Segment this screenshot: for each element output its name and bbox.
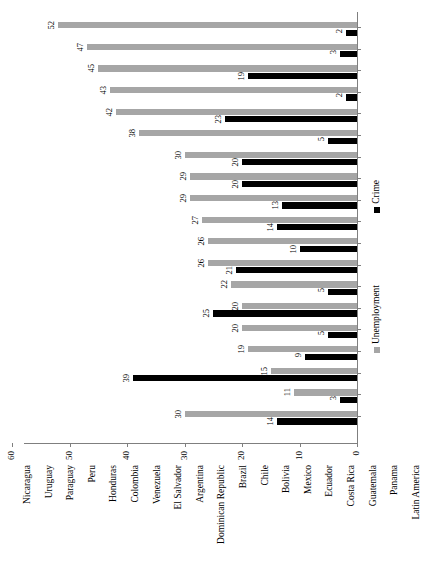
bar-value-label: 42 [105,108,114,117]
category-axis-tick [357,394,361,395]
bar-unemployment [185,411,358,417]
bar-crime [340,397,357,403]
category-axis-tick [357,265,361,266]
bar-value-label: 2 [335,93,344,97]
category-axis-tick [357,157,361,158]
category-label: Honduras [109,465,119,502]
value-axis-tick [357,443,358,447]
bar-value-label: 30 [174,151,183,160]
category-label: Costa Rica [347,465,357,506]
category-label: Venezuela [153,465,163,504]
value-axis-line [357,12,358,443]
bar-value-label: 10 [289,245,298,254]
category-label: Dominican Republic [217,465,227,544]
bar-unemployment [208,260,358,266]
category-axis-tick [357,351,361,352]
category-label: Chile [261,465,271,486]
bar-crime [340,51,357,57]
category-axis-tick [357,373,361,374]
legend-swatch-icon [374,207,380,213]
legend-label: Unemployment [372,285,382,344]
bar-unemployment [294,389,357,395]
category-axis-tick [357,221,361,222]
category-label: Colombia [131,465,141,502]
bar-value-label: 5 [317,288,326,292]
value-axis-tick [185,443,186,447]
category-label: Brazil [239,465,249,488]
bar-value-label: 30 [174,410,183,419]
category-label: El Salvador [174,465,184,510]
bar-unemployment [248,346,357,352]
bar-value-label: 15 [260,367,269,376]
bar-crime [346,30,358,36]
category-axis-tick [357,92,361,93]
bar-crime [277,418,358,424]
bar-value-label: 20 [231,302,240,311]
bar-value-label: 29 [179,194,188,203]
value-axis-tick-label: 40 [122,451,131,460]
category-axis-tick [357,243,361,244]
bar-crime [213,310,357,316]
bar-unemployment [139,130,358,136]
bar-unemployment [208,238,358,244]
category-label: Guatemala [369,465,379,506]
bar-value-label: 13 [271,201,280,210]
category-axis-tick [357,113,361,114]
bar-value-label: 23 [214,115,223,124]
category-axis-tick [357,308,361,309]
value-axis-tick-label: 50 [65,451,74,460]
legend-item: Unemployment [372,285,382,353]
bar-unemployment [242,303,357,309]
value-axis-tick [70,443,71,447]
bar-unemployment [87,44,357,50]
bar-value-label: 14 [266,223,275,232]
bar-value-label: 3 [329,50,338,54]
bar-unemployment [58,22,357,28]
value-axis-tick-label: 20 [237,451,246,460]
bar-value-label: 19 [237,72,246,81]
bar-value-label: 21 [225,266,234,275]
category-axis-tick [357,49,361,50]
bar-crime [248,73,357,79]
bar-value-label: 38 [128,129,137,138]
bar-crime [300,246,358,252]
legend-item: Crime [372,180,382,213]
bar-value-label: 20 [231,180,240,189]
bar-value-label: 5 [317,331,326,335]
bar-unemployment [202,217,357,223]
bar-value-label: 20 [231,158,240,167]
bar-unemployment [116,109,358,115]
bar-unemployment [185,152,358,158]
bar-crime [328,138,357,144]
bar-crime [328,332,357,338]
bar-crime [133,375,357,381]
bar-crime [282,202,357,208]
legend-label: Crime [372,180,382,204]
category-label: Ecuador [325,465,335,497]
category-label: Peru [88,465,98,482]
bar-unemployment [190,173,357,179]
category-axis-tick [357,200,361,201]
bar-value-label: 39 [122,374,131,383]
category-axis-line [24,443,357,444]
bar-value-label: 19 [237,345,246,354]
value-axis-tick [300,443,301,447]
bar-value-label: 52 [47,21,56,30]
value-axis-tick-label: 10 [295,451,304,460]
bar-value-label: 14 [266,417,275,426]
bar-crime [328,289,357,295]
bar-crime [277,224,358,230]
category-axis-tick [357,178,361,179]
bar-crime [346,94,358,100]
category-axis-tick [357,135,361,136]
category-axis-tick [357,70,361,71]
bar-value-label: 27 [191,216,200,225]
value-axis-tick-label: 30 [180,451,189,460]
value-axis-tick [12,443,13,447]
bar-crime [305,354,357,360]
bar-value-label: 3 [329,396,338,400]
category-axis-tick [357,286,361,287]
bar-value-label: 26 [197,237,206,246]
category-label: Paraguay [66,465,76,500]
value-axis-tick-label: 0 [352,451,361,456]
